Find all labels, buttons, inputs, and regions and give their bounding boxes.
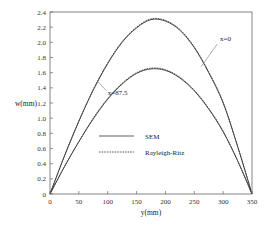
x-tick-label: 0 <box>48 198 52 206</box>
annotation-leader <box>98 82 107 91</box>
y-tick-label: 0.4 <box>37 160 46 168</box>
y-tick-label: 2.4 <box>37 9 46 17</box>
x-tick-label: 200 <box>160 198 171 206</box>
series-line <box>50 19 252 194</box>
legend: SEMRayleigh-Ritz <box>99 133 184 157</box>
y-axis-ticks: 00.20.40.60.81.01.21.41.61.82.02.22.4 <box>37 9 53 199</box>
x-tick-label: 150 <box>131 198 142 206</box>
x-tick-label: 300 <box>218 198 229 206</box>
x-axis-label: y(mm) <box>141 208 162 217</box>
line-chart: 050100150200250300350 00.20.40.60.81.01.… <box>0 0 273 229</box>
x-tick-label: 100 <box>102 198 113 206</box>
y-tick-label: 0 <box>43 191 47 199</box>
x-tick-label: 250 <box>189 198 200 206</box>
series-line <box>50 18 252 194</box>
y-tick-label: 1.0 <box>37 115 46 123</box>
legend-label: Rayleigh-Ritz <box>145 149 184 157</box>
series-layer <box>50 18 252 194</box>
legend-label: SEM <box>145 133 160 141</box>
y-tick-label: 1.4 <box>37 84 46 92</box>
annotation-leader <box>201 44 217 67</box>
y-tick-label: 0.2 <box>37 175 46 183</box>
x-axis-ticks: 050100150200250300350 <box>48 191 258 206</box>
series-line <box>50 69 252 194</box>
y-tick-label: 0.6 <box>37 145 46 153</box>
y-tick-label: 2.2 <box>37 24 46 32</box>
y-tick-label: 1.2 <box>37 100 46 108</box>
y-tick-label: 0.8 <box>37 130 46 138</box>
series-line <box>50 68 252 194</box>
y-tick-label: 1.6 <box>37 69 46 77</box>
y-tick-label: 1.8 <box>37 54 46 62</box>
annotation-x87-5: x=87.5 <box>108 89 128 97</box>
y-axis-label: w(mm) <box>15 99 38 108</box>
x-tick-label: 350 <box>247 198 258 206</box>
annotation-x0: x=0 <box>220 35 231 43</box>
y-tick-label: 2.0 <box>37 39 46 47</box>
x-tick-label: 50 <box>75 198 83 206</box>
